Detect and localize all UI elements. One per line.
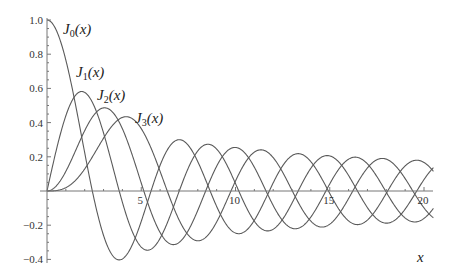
x-tick-label: 10	[229, 194, 241, 206]
label-j3: J3(x)	[135, 110, 163, 128]
y-tick-label: −0.4	[23, 253, 43, 265]
y-tick-label: 1.0	[29, 14, 43, 26]
curve-j0	[47, 20, 433, 260]
y-tick-label: −0.2	[23, 219, 43, 231]
y-tick-label: 0.2	[29, 151, 43, 163]
x-tick-label: 5	[138, 194, 144, 206]
y-tick-label: 0.8	[29, 48, 43, 60]
x-tick-label: 15	[323, 194, 335, 206]
curve-j2	[47, 108, 433, 245]
bessel-chart: 5101520−0.4−0.20.20.40.60.81.0 J0(x) J1(…	[0, 0, 453, 280]
x-tick-label: 20	[418, 194, 430, 206]
ticks-group: 5101520−0.4−0.20.20.40.60.81.0	[23, 14, 429, 265]
x-axis-title: x	[416, 249, 424, 265]
y-tick-label: 0.6	[29, 82, 43, 94]
label-j1: J1(x)	[76, 64, 104, 82]
curve-j3	[47, 117, 433, 241]
y-tick-label: 0.4	[29, 117, 43, 129]
label-j0: J0(x)	[63, 21, 91, 39]
curves-group	[47, 20, 433, 260]
label-j2: J2(x)	[97, 87, 125, 105]
axes-group: 5101520−0.4−0.20.20.40.60.81.0	[23, 14, 433, 265]
